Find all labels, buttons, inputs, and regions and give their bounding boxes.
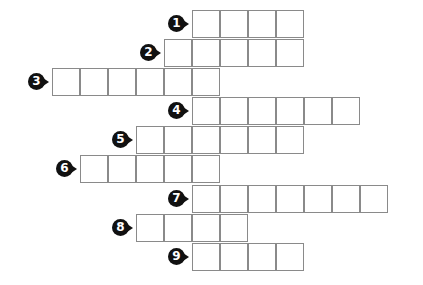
letter-cell[interactable] [220, 214, 248, 242]
letter-cell[interactable] [360, 185, 388, 213]
answer-row-6 [80, 155, 220, 183]
letter-cell[interactable] [248, 243, 276, 271]
letter-cell[interactable] [248, 126, 276, 154]
answer-row-7 [192, 185, 388, 213]
letter-cell[interactable] [164, 126, 192, 154]
letter-cell[interactable] [52, 68, 80, 96]
letter-cell[interactable] [192, 97, 220, 125]
clue-number-marker: 7 [168, 190, 190, 208]
pointer-arrow-icon [127, 224, 133, 232]
letter-cell[interactable] [136, 68, 164, 96]
letter-cell[interactable] [164, 214, 192, 242]
clue-number-marker: 2 [140, 44, 162, 62]
letter-cell[interactable] [192, 243, 220, 271]
letter-cell[interactable] [304, 185, 332, 213]
answer-row-9 [192, 243, 304, 271]
letter-cell[interactable] [164, 155, 192, 183]
pointer-arrow-icon [71, 165, 77, 173]
letter-cell[interactable] [192, 185, 220, 213]
letter-cell[interactable] [276, 126, 304, 154]
answer-row-8 [136, 214, 248, 242]
letter-cell[interactable] [276, 243, 304, 271]
letter-cell[interactable] [108, 68, 136, 96]
letter-cell[interactable] [108, 155, 136, 183]
letter-cell[interactable] [220, 39, 248, 67]
pointer-arrow-icon [155, 49, 161, 57]
clue-number-marker: 5 [112, 131, 134, 149]
letter-cell[interactable] [80, 68, 108, 96]
letter-cell[interactable] [136, 155, 164, 183]
letter-cell[interactable] [164, 39, 192, 67]
letter-cell[interactable] [276, 185, 304, 213]
letter-cell[interactable] [192, 68, 220, 96]
letter-cell[interactable] [332, 185, 360, 213]
answer-row-3 [52, 68, 220, 96]
letter-cell[interactable] [220, 97, 248, 125]
letter-cell[interactable] [220, 10, 248, 38]
letter-cell[interactable] [276, 97, 304, 125]
letter-cell[interactable] [304, 97, 332, 125]
letter-cell[interactable] [192, 10, 220, 38]
letter-cell[interactable] [192, 214, 220, 242]
letter-cell[interactable] [192, 126, 220, 154]
letter-cell[interactable] [136, 126, 164, 154]
letter-cell[interactable] [276, 39, 304, 67]
answer-row-4 [192, 97, 360, 125]
clue-number-marker: 1 [168, 15, 190, 33]
letter-cell[interactable] [220, 243, 248, 271]
letter-cell[interactable] [136, 214, 164, 242]
clue-number-marker: 3 [28, 73, 50, 91]
letter-cell[interactable] [164, 68, 192, 96]
letter-cell[interactable] [192, 39, 220, 67]
pointer-arrow-icon [183, 195, 189, 203]
pointer-arrow-icon [183, 253, 189, 261]
letter-cell[interactable] [248, 10, 276, 38]
answer-row-2 [164, 39, 304, 67]
letter-cell[interactable] [248, 185, 276, 213]
answer-row-5 [136, 126, 304, 154]
pointer-arrow-icon [183, 20, 189, 28]
pointer-arrow-icon [43, 78, 49, 86]
letter-cell[interactable] [248, 39, 276, 67]
pointer-arrow-icon [127, 136, 133, 144]
answer-row-1 [192, 10, 304, 38]
clue-number-marker: 9 [168, 248, 190, 266]
clue-number-marker: 8 [112, 219, 134, 237]
clue-number-marker: 6 [56, 160, 78, 178]
letter-cell[interactable] [220, 185, 248, 213]
letter-cell[interactable] [248, 97, 276, 125]
letter-cell[interactable] [220, 126, 248, 154]
letter-cell[interactable] [276, 10, 304, 38]
letter-cell[interactable] [80, 155, 108, 183]
letter-cell[interactable] [192, 155, 220, 183]
pointer-arrow-icon [183, 107, 189, 115]
letter-cell[interactable] [332, 97, 360, 125]
clue-number-marker: 4 [168, 102, 190, 120]
